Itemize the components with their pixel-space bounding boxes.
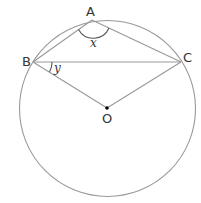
angle-y-arc xyxy=(50,62,53,72)
label-a: A xyxy=(86,4,95,19)
circle-diagram: A B C O x y xyxy=(0,0,201,203)
label-c: C xyxy=(183,50,192,65)
label-o: O xyxy=(102,111,112,126)
angle-y-label: y xyxy=(53,61,61,75)
segment-co xyxy=(107,62,181,108)
angle-x-label: x xyxy=(90,36,97,50)
center-dot xyxy=(105,106,109,110)
segment-ab xyxy=(33,20,92,62)
segment-ac xyxy=(92,20,181,62)
label-b: B xyxy=(22,54,31,69)
segment-bo xyxy=(33,62,107,108)
